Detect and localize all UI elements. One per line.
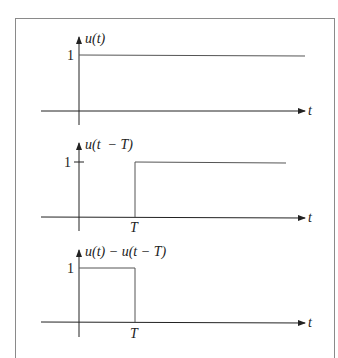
level-label: 1 bbox=[67, 48, 74, 63]
marker-label: T bbox=[130, 220, 139, 235]
x-axis bbox=[41, 217, 305, 218]
level-label: 1 bbox=[64, 155, 71, 170]
signal-step bbox=[135, 162, 286, 217]
y-axis-label: u(t − T) bbox=[85, 137, 133, 153]
x-axis-label: t bbox=[308, 210, 313, 225]
y-axis-label: u(t) − u(t − T) bbox=[85, 244, 166, 260]
x-axis-label: t bbox=[308, 103, 313, 118]
panel-unit-step: u(t) 1 t bbox=[41, 31, 313, 125]
signal-level bbox=[79, 55, 305, 56]
y-axis-label: u(t) bbox=[85, 31, 106, 47]
level-label: 1 bbox=[67, 261, 74, 276]
panel-rectangular-pulse: u(t) − u(t − T) 1 T t bbox=[41, 244, 313, 341]
marker-label: T bbox=[130, 326, 139, 341]
x-axis bbox=[41, 322, 305, 323]
signal-pulse bbox=[79, 268, 135, 322]
panel-shifted-step: u(t − T) 1 T t bbox=[41, 137, 313, 235]
x-axis-label: t bbox=[308, 315, 313, 330]
